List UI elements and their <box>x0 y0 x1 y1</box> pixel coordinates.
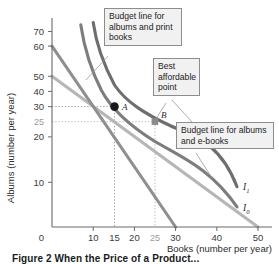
guide-lines <box>52 107 155 227</box>
x-tick-label-30: 30 <box>170 232 181 243</box>
y-tick-label-20: 20 <box>33 131 44 142</box>
x-tick-label-20: 20 <box>129 232 140 243</box>
curve-label-i1: I1 <box>242 182 249 194</box>
data-point-b <box>152 118 159 125</box>
leader-line-ebooks-lower <box>196 153 212 178</box>
y-tick-label-50: 50 <box>33 71 44 82</box>
x-tick-label-25: 25 <box>150 233 160 243</box>
x-tick-label-15: 15 <box>109 232 120 243</box>
x-tick-label-10: 10 <box>88 232 99 243</box>
y-tick-label-40: 40 <box>33 86 44 97</box>
y-tick-label-60: 60 <box>33 41 44 52</box>
callout-best-affordable-point: Best affordable point <box>153 58 200 96</box>
x-tick-label-50: 50 <box>253 232 264 243</box>
figure-caption: Figure 2 When the Price of a Product... <box>12 253 274 264</box>
y-tick-label-10: 10 <box>33 177 44 188</box>
leader-line-ebooks <box>172 100 192 122</box>
curve-label-i0: I0 <box>242 203 250 215</box>
callout-budget-line-print-books: Budget line for albums and print books <box>104 8 182 46</box>
callout-budget-line-ebooks: Budget line for albums and e-books <box>176 122 274 149</box>
y-tick-label-70: 70 <box>33 26 44 37</box>
figure-container: 70 60 50 40 30 25 20 10 0 10 15 20 25 30… <box>0 0 279 264</box>
x-tick-label-40: 40 <box>212 232 223 243</box>
data-point-a-label: A <box>121 102 128 112</box>
y-tick-label-30: 30 <box>33 101 44 112</box>
data-point-a <box>110 102 119 111</box>
budget-line-ebooks <box>52 76 258 227</box>
y-tick-label-25: 25 <box>34 117 44 127</box>
y-axis-title: Albums (number per year) <box>5 93 16 203</box>
data-point-b-label: B <box>161 110 167 120</box>
y-tick-label-0: 0 <box>39 232 44 243</box>
